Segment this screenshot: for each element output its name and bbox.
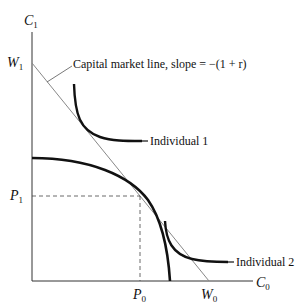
capital-market-line — [32, 63, 209, 281]
w1-label: W1 — [7, 55, 23, 72]
individual-1-label: Individual 1 — [150, 134, 208, 148]
individual-2-label: Individual 2 — [236, 255, 294, 269]
y-axis-label: C1 — [24, 13, 38, 30]
individual-1-indifference-curve — [74, 84, 142, 141]
individual-2-indifference-curve — [165, 221, 228, 262]
production-frontier-curve — [32, 158, 170, 281]
x-axis-label: C0 — [256, 275, 270, 292]
fisher-separation-diagram: C1 C0 W1 P1 P0 W0 Capital market line, s… — [0, 0, 300, 305]
capital-market-line-label: Capital market line, slope = −(1 + r) — [73, 57, 247, 71]
cml-leader-line — [47, 66, 72, 82]
p0-label: P0 — [132, 287, 147, 304]
w0-label: W0 — [201, 287, 218, 304]
p1-label: P1 — [9, 188, 23, 205]
